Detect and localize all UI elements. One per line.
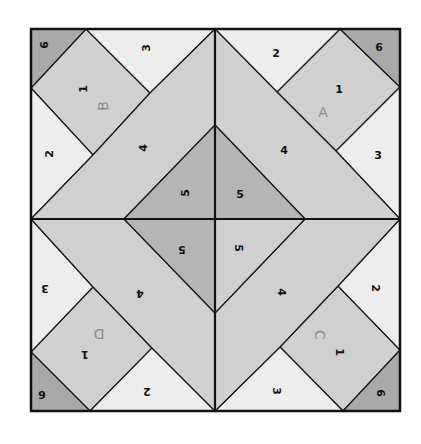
piece-number-label: 4 [136, 287, 144, 300]
quadrant-letter-a: A [318, 104, 328, 120]
piece-number-label: 5 [236, 188, 244, 201]
piece-number-label: 5 [178, 243, 186, 256]
piece-number-label: 6 [38, 388, 46, 401]
piece-number-label: 2 [43, 150, 56, 158]
quadrant-letter-b: B [95, 101, 111, 111]
piece-number-label: 2 [369, 284, 382, 292]
piece-number-label: 3 [41, 282, 49, 295]
piece-number-label: 3 [270, 387, 283, 395]
piece-number-label: 1 [81, 348, 89, 361]
piece-number-label: 6 [375, 41, 383, 54]
piece-number-label: 1 [335, 83, 343, 96]
quilt-block-diagram: 123456A123456B123456C123456D [0, 0, 421, 444]
quadrant-d [31, 219, 215, 411]
piece-number-label: 4 [137, 144, 150, 152]
piece-number-label: 5 [179, 189, 192, 197]
piece-number-label: 2 [272, 47, 280, 60]
piece-number-label: 4 [275, 288, 288, 296]
piece-number-label: 6 [374, 389, 387, 397]
quadrant-letter-d: D [94, 326, 105, 342]
piece-number-label: 3 [140, 44, 153, 52]
piece-number-label: 5 [232, 244, 245, 252]
piece-number-label: 3 [374, 149, 382, 162]
piece-number-label: 1 [333, 348, 346, 356]
piece-number-label: 2 [143, 385, 151, 398]
quadrant-letter-c: C [312, 330, 328, 340]
piece-number-label: 6 [38, 41, 51, 49]
piece-number-label: 4 [280, 144, 288, 157]
piece-number-label: 1 [77, 85, 90, 93]
